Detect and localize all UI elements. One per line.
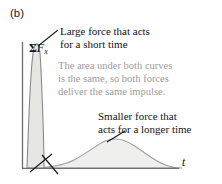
- annotation-small-force: Smaller force that acts for a longer tim…: [98, 110, 191, 137]
- x-axis-label: t: [182, 155, 185, 169]
- annotation-large-force: Large force that acts for a short time: [60, 25, 150, 52]
- impulse-figure: (b) ΣFx t Large force that acts for a sh…: [0, 0, 222, 184]
- curve-small-force-area: [30, 139, 182, 168]
- annotation-equal-area: The area under both curves is the same, …: [58, 60, 172, 98]
- panel-label: (b): [10, 6, 24, 20]
- sigma-icon: Σ: [29, 41, 37, 55]
- y-axis-label: ΣFx: [17, 26, 48, 71]
- y-axis-label-subscript: x: [44, 47, 48, 56]
